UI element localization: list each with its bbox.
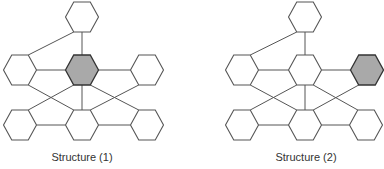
structure-2-nodes (226, 2, 384, 140)
hexagon-node-mid-left (226, 55, 259, 85)
hexagon-node-bot-left (226, 110, 259, 140)
hexagon-node-top (289, 2, 322, 32)
structure-2-caption: Structure (2) (275, 151, 336, 163)
edge-top-mid-left (250, 32, 297, 55)
hexagon-node-mid-right-shaded (351, 55, 384, 85)
edge-top-mid-left (28, 32, 74, 55)
hexagon-node-mid-center (289, 55, 322, 85)
hexagon-node-mid-center-shaded (66, 55, 99, 85)
hexagon-node-bot-right (350, 110, 383, 140)
network-diagram (0, 0, 384, 169)
hexagon-node-bot-right (131, 110, 164, 140)
hexagon-node-mid-left (4, 55, 37, 85)
hexagon-node-bot-left (4, 110, 37, 140)
structure-1-nodes (4, 2, 164, 140)
hexagon-node-top (66, 2, 99, 32)
hexagon-node-bot-center (66, 110, 99, 140)
hexagon-node-bot-center (289, 110, 322, 140)
structure-1-caption: Structure (1) (51, 151, 112, 163)
hexagon-node-mid-right (131, 55, 164, 85)
